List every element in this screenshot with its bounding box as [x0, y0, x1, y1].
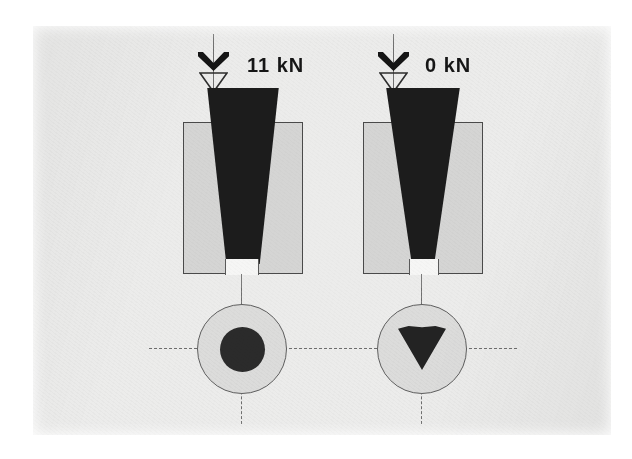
load-case-panel-right: 0 kN — [313, 26, 553, 435]
plan-view-right — [321, 288, 545, 428]
wedge-tip-gap-right — [409, 259, 439, 275]
load-arrow-symbol-left — [191, 34, 237, 96]
wedge-tip-gap-left — [225, 259, 259, 275]
load-label-right: 0 kN — [425, 54, 471, 77]
elevation-view-right — [321, 88, 545, 303]
figure-root: 11 kN — [0, 0, 632, 459]
load-arrow-symbol-right — [371, 34, 417, 96]
scanned-figure-plate: 11 kN — [33, 26, 611, 435]
load-label-left: 11 kN — [247, 54, 304, 77]
contact-circle-left — [220, 327, 265, 372]
